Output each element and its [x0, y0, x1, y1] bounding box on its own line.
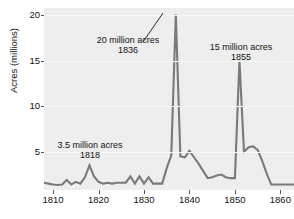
- annotation-1836-line1: 20 million acres: [97, 35, 160, 45]
- annotation-1836-line2: 1836: [97, 45, 160, 55]
- x-tick-mark-1860: [280, 190, 281, 194]
- annotation-1855-line2: 1855: [210, 52, 273, 62]
- series-line-public-land-sales: [44, 8, 294, 190]
- annotation-1855-line1: 15 million acres: [210, 42, 273, 52]
- y-tick-label-20: 20: [29, 11, 40, 21]
- y-tick-label-5: 5: [35, 147, 40, 157]
- x-tick-mark-1830: [144, 190, 145, 194]
- annotation-1818: 3.5 million acres1818: [57, 140, 122, 161]
- x-tick-label-1840: 1840: [179, 195, 200, 205]
- plot-area: [44, 8, 294, 190]
- x-tick-label-1850: 1850: [224, 195, 245, 205]
- x-tick-label-1820: 1820: [88, 195, 109, 205]
- x-tick-label-1860: 1860: [270, 195, 291, 205]
- gridline-y-20: [44, 15, 294, 16]
- x-tick-mark-1850: [235, 190, 236, 194]
- y-axis: Acres (millions) 5101520: [0, 0, 44, 190]
- y-axis-title: Acres (millions): [8, 1, 19, 121]
- annotation-1818-line1: 3.5 million acres: [57, 140, 122, 150]
- x-tick-mark-1840: [189, 190, 190, 194]
- x-tick-mark-1810: [53, 190, 54, 194]
- chart-figure: Acres (millions) 5101520 181018201830184…: [0, 0, 294, 219]
- y-tick-label-10: 10: [29, 102, 40, 112]
- x-tick-label-1830: 1830: [133, 195, 154, 205]
- annotation-1855: 15 million acres1855: [210, 42, 273, 63]
- x-tick-mark-1820: [99, 190, 100, 194]
- annotation-1818-line2: 1818: [57, 150, 122, 160]
- x-axis: 181018201830184018501860: [44, 190, 294, 210]
- gridline-y-10: [44, 106, 294, 107]
- x-tick-label-1810: 1810: [43, 195, 64, 205]
- annotation-1836: 20 million acres1836: [97, 35, 160, 56]
- y-tick-label-15: 15: [29, 56, 40, 66]
